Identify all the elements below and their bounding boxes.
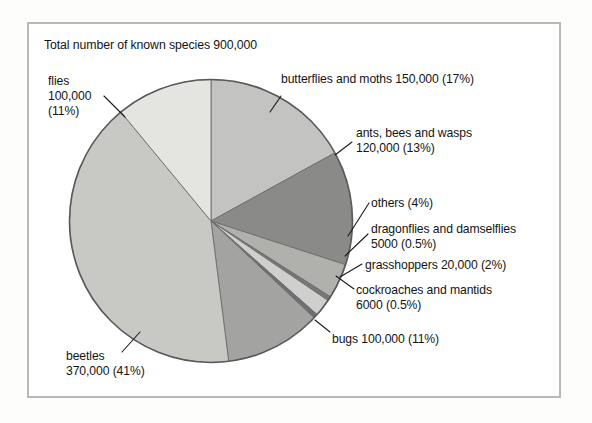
leader-line-ants (335, 142, 352, 155)
slice-label-flies-line3: (11%) (48, 104, 91, 119)
slice-label-dragonflies-and-damselflies: dragonflies and damselflies 5000 (0.5%) (371, 222, 516, 252)
slice-label-beetles: beetles 370,000 (41%) (66, 349, 145, 379)
slice-label-grasshoppers-line1: grasshoppers 20,000 (2%) (365, 258, 506, 273)
slice-label-butterflies-line1: butterflies and moths 150,000 (17%) (281, 72, 474, 87)
leader-line-flies (104, 96, 125, 117)
chart-title: Total number of known species 900,000 (44, 38, 257, 52)
pie-slices (69, 80, 352, 363)
slice-label-flies-line2: 100,000 (48, 89, 91, 104)
slice-label-dragonflies-line2: 5000 (0.5%) (371, 237, 516, 252)
slice-label-bugs: bugs 100,000 (11%) (332, 332, 439, 347)
slice-label-flies: flies 100,000 (11%) (48, 74, 91, 120)
slice-label-grasshoppers: grasshoppers 20,000 (2%) (365, 258, 506, 273)
slice-label-butterflies-and-moths: butterflies and moths 150,000 (17%) (281, 72, 474, 87)
slice-label-others-line1: others (4%) (371, 196, 433, 211)
leader-line-bugs (315, 320, 330, 332)
slice-label-bugs-line1: bugs 100,000 (11%) (332, 332, 439, 347)
slice-label-beetles-line1: beetles (66, 349, 145, 364)
figure-page: Total number of known species 900,000 fl… (0, 0, 592, 423)
slice-label-ants-line1: ants, bees and wasps (356, 126, 472, 141)
slice-label-cockroaches-and-mantids: cockroaches and mantids 6000 (0.5%) (356, 283, 492, 313)
slice-label-ants-line2: 120,000 (13%) (356, 141, 472, 156)
slice-label-dragonflies-line1: dragonflies and damselflies (371, 222, 516, 237)
slice-label-beetles-line2: 370,000 (41%) (66, 364, 145, 379)
slice-label-cockroaches-line2: 6000 (0.5%) (356, 298, 492, 313)
slice-label-cockroaches-line1: cockroaches and mantids (356, 283, 492, 298)
slice-label-ants-bees-and-wasps: ants, bees and wasps 120,000 (13%) (356, 126, 472, 156)
slice-label-others: others (4%) (371, 196, 433, 211)
slice-label-flies-line1: flies (48, 74, 91, 89)
